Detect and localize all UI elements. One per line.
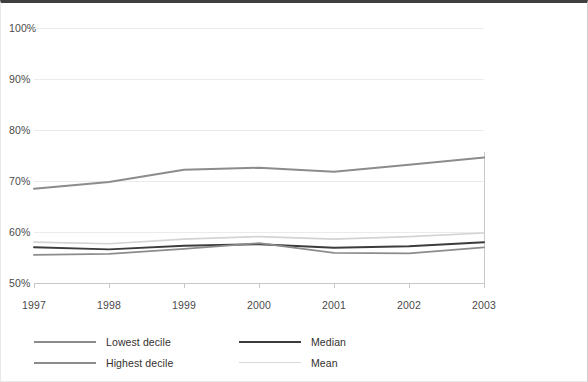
chart-legend: Lowest decile Median Highest decile Mean (34, 331, 484, 373)
x-tick-label: 1997 (22, 299, 46, 311)
series-lines (34, 158, 484, 255)
legend-item-highest-decile: Highest decile (34, 357, 239, 369)
legend-item-median: Median (239, 336, 439, 348)
y-tick-label: 80% (9, 124, 30, 136)
x-tick-label: 2001 (322, 299, 346, 311)
legend-row: Lowest decile Median (34, 331, 484, 352)
x-tick-label: 2000 (247, 299, 271, 311)
chart-figure: 100% 90% 80% 70% 60% 50% 1997 1998 1999 … (0, 0, 588, 382)
x-tick-label: 2003 (472, 299, 496, 311)
legend-swatch-icon (34, 341, 96, 343)
legend-swatch-icon (239, 341, 301, 343)
y-tick-label: 100% (9, 22, 36, 34)
legend-swatch-icon (239, 362, 301, 363)
axis-lines (34, 152, 484, 288)
x-tick-label: 1998 (97, 299, 121, 311)
y-tick-label: 70% (9, 175, 30, 187)
x-tick-label: 2002 (397, 299, 421, 311)
legend-swatch-icon (34, 362, 96, 364)
legend-label: Highest decile (106, 357, 173, 369)
chart-canvas (34, 28, 484, 283)
x-tick-label: 1999 (172, 299, 196, 311)
legend-label: Median (311, 336, 346, 348)
y-tick-label: 50% (9, 277, 30, 289)
y-tick-label: 60% (9, 226, 30, 238)
y-tick-label: 90% (9, 73, 30, 85)
series-line (34, 233, 484, 244)
legend-item-lowest-decile: Lowest decile (34, 336, 239, 348)
plot-area (34, 28, 484, 283)
legend-label: Lowest decile (106, 336, 171, 348)
legend-item-mean: Mean (239, 357, 439, 369)
series-line (34, 158, 484, 189)
legend-label: Mean (311, 357, 338, 369)
legend-row: Highest decile Mean (34, 352, 484, 373)
